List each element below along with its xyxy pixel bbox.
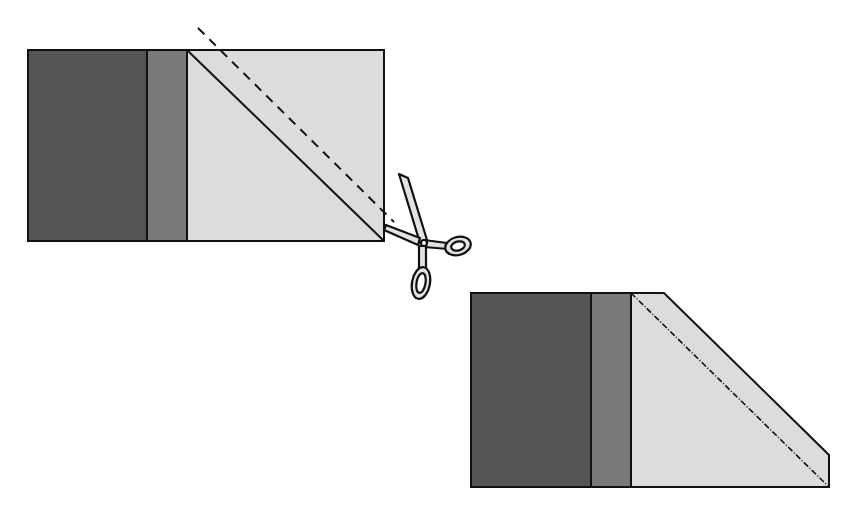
scissors-icon — [384, 174, 473, 300]
before-medium-strip — [147, 50, 187, 241]
before-dark-strip — [28, 50, 147, 241]
quilt-cut-diagram — [0, 0, 858, 530]
before-block — [28, 28, 394, 241]
after-block — [471, 293, 829, 487]
after-medium-strip — [591, 293, 631, 487]
after-dark-strip — [471, 293, 591, 487]
